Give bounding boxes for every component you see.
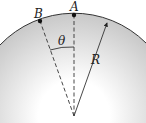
label-b: B: [33, 7, 43, 21]
label-a: A: [69, 0, 79, 14]
shaded-region: [0, 13, 146, 123]
label-theta: θ: [58, 34, 66, 48]
label-radius: R: [90, 53, 100, 67]
circular-sector-diagram: A B θ R: [0, 0, 146, 123]
